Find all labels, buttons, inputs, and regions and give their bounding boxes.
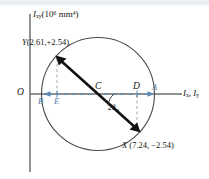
vertical-axis-units-close: ) xyxy=(75,9,78,19)
mohrs-circle-figure: Ixy(106 mm4) Ix, Iy O Y(2.61,+2.54) X (7… xyxy=(0,0,209,179)
point-y-coords: (2.61,+2.54) xyxy=(27,37,69,47)
vertical-axis-units-base: (10 xyxy=(42,9,54,19)
point-label-y: Y(2.61,+2.54) xyxy=(22,38,69,47)
point-label-b: B xyxy=(38,97,43,106)
horizontal-axis-label: Ix, Iy xyxy=(183,89,199,99)
point-label-c: C xyxy=(95,82,101,92)
point-x-coords: (7.24, −2.54) xyxy=(129,140,173,150)
point-x-symbol: X xyxy=(122,140,127,150)
origin-label: O xyxy=(17,88,24,98)
center-point-c xyxy=(97,93,99,95)
mohrs-circle-canvas xyxy=(0,0,209,179)
vertical-axis-units-tail: mm xyxy=(56,9,72,19)
point-label-a: A xyxy=(152,83,157,92)
point-label-d: D xyxy=(133,82,140,92)
point-label-e: E xyxy=(54,97,59,106)
angle-label-2theta-m: 2θm xyxy=(108,104,119,113)
angle-subscript: m xyxy=(115,107,119,112)
vertical-axis-label: Ixy(106 mm4) xyxy=(33,10,78,20)
horizontal-axis-subscript-2: y xyxy=(196,92,199,98)
point-label-x: X (7.24, −2.54) xyxy=(122,141,174,150)
